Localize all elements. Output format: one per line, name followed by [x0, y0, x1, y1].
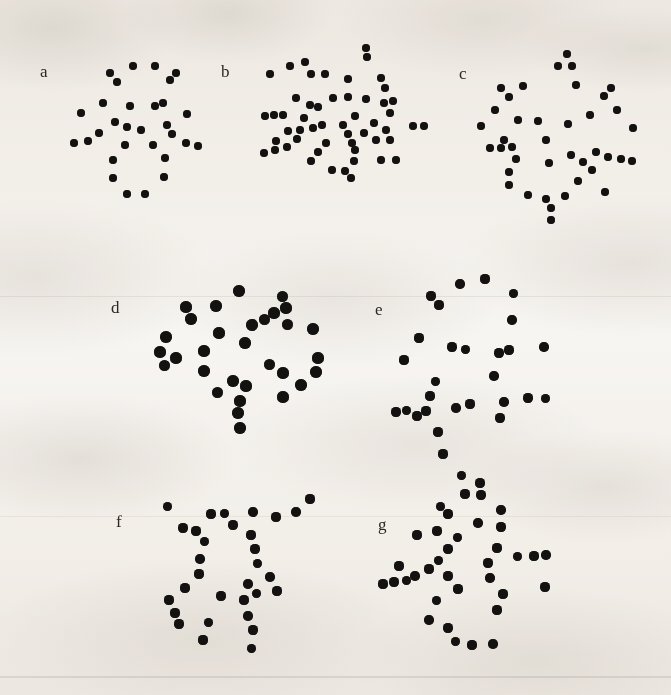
dot — [402, 576, 411, 585]
dot — [492, 543, 501, 552]
dot — [483, 558, 492, 567]
dot — [498, 589, 507, 598]
dot — [467, 640, 476, 649]
dot — [412, 530, 421, 539]
dot — [541, 550, 550, 559]
dot — [432, 596, 441, 605]
dot — [496, 522, 505, 531]
dot — [453, 584, 462, 593]
dot — [436, 502, 445, 511]
dot — [451, 637, 460, 646]
dot — [443, 623, 452, 632]
dot-pattern-figure: abcdefg — [0, 0, 671, 695]
dot — [453, 533, 462, 542]
dot-layer-g — [0, 0, 671, 695]
dot — [473, 518, 482, 527]
dot — [488, 639, 497, 648]
dot — [529, 551, 538, 560]
dot — [378, 579, 387, 588]
dot — [485, 573, 494, 582]
dot — [443, 544, 452, 553]
dot — [540, 582, 549, 591]
dot — [443, 571, 452, 580]
dot — [443, 509, 452, 518]
dot — [432, 526, 441, 535]
dot — [410, 571, 419, 580]
dot — [424, 564, 433, 573]
dot — [476, 490, 485, 499]
dot — [492, 605, 501, 614]
dot — [394, 561, 403, 570]
dot — [460, 489, 469, 498]
dot — [424, 615, 433, 624]
dot — [389, 577, 398, 586]
dot — [496, 505, 505, 514]
panel-g: g — [0, 0, 671, 695]
dot — [434, 556, 443, 565]
dot — [513, 552, 522, 561]
